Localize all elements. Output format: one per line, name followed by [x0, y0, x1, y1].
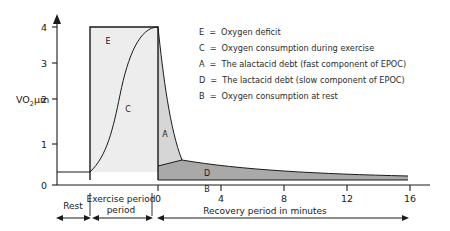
legend-sep-1: =	[210, 43, 217, 53]
y-axis-arrowhead	[53, 14, 61, 24]
region-label-E: E	[105, 37, 110, 46]
vo2-epoc-chart: 4 3 2 1 0 VO2µm 0 4 8 12 16 E C A D B Re…	[0, 0, 450, 231]
legend-sep-3: =	[210, 75, 217, 85]
x-tick-label-4: 4	[218, 193, 224, 204]
dimension-arrow-rest-left	[56, 215, 63, 221]
x-tick-label-16: 16	[404, 193, 416, 204]
phase-label-exercise-line2: period	[107, 205, 136, 215]
region-label-C: C	[125, 105, 131, 114]
phase-label-exercise: Exercise period	[87, 194, 156, 204]
legend-code-3: D	[199, 75, 205, 85]
region-label-B: B	[204, 185, 210, 194]
legend-desc-0: Oxygen deficit	[221, 27, 281, 37]
legend-sep-0: =	[209, 27, 216, 37]
y-axis-title-unit: µm	[34, 94, 49, 105]
x-tick-label-8: 8	[281, 193, 287, 204]
y-axis-title: VO2µm	[16, 94, 49, 108]
x-tick-label-12: 12	[341, 193, 353, 204]
y-tick-label-4: 4	[41, 22, 47, 33]
chart-svg: 4 3 2 1 0 VO2µm 0 4 8 12 16 E C A D B Re…	[0, 0, 450, 231]
legend-code-0: E	[199, 27, 204, 37]
y-tick-label-1: 1	[41, 139, 47, 150]
y-tick-label-3: 3	[41, 58, 47, 69]
legend-row-2: A=The alactacid debt (fast component of …	[199, 59, 406, 69]
legend-code-4: B	[199, 91, 205, 101]
legend-code-2: A	[199, 59, 205, 69]
region-label-A: A	[162, 130, 168, 139]
legend-row-1: C=Oxygen consumption during exercise	[199, 43, 374, 53]
region-lactacid-D	[158, 160, 408, 180]
legend-desc-2: The alactacid debt (fast component of EP…	[220, 59, 406, 69]
legend-code-1: C	[199, 43, 205, 53]
chart-legend: E=Oxygen deficit C=Oxygen consumption du…	[199, 27, 406, 101]
x-tick-label-0: 0	[155, 193, 161, 204]
dimension-arrow-recovery-right	[402, 215, 409, 221]
legend-sep-4: =	[210, 91, 217, 101]
y-tick-label-0: 0	[41, 180, 47, 191]
y-axis-title-base: VO	[16, 94, 30, 105]
legend-sep-2: =	[210, 59, 217, 69]
dimension-arrow-exercise-left	[92, 215, 99, 221]
legend-row-4: B=Oxygen consumption at rest	[199, 91, 339, 101]
region-label-D: D	[204, 169, 210, 178]
phase-label-rest: Rest	[63, 201, 83, 211]
phase-label-recovery: Recovery period in minutes	[203, 206, 327, 216]
legend-desc-4: Oxygen consumption at rest	[222, 91, 339, 101]
legend-row-3: D=The lactacid debt (slow component of E…	[199, 75, 405, 85]
legend-desc-3: The lactacid debt (slow component of EPO…	[221, 75, 405, 85]
dimension-arrow-recovery-left	[157, 215, 164, 221]
legend-desc-1: Oxygen consumption during exercise	[222, 43, 375, 53]
legend-row-0: E=Oxygen deficit	[199, 27, 281, 37]
region-alactacid-A	[158, 27, 182, 166]
